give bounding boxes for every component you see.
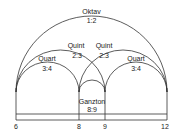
label-ganzton-ratio: 8:9 <box>87 106 97 113</box>
label-quart-right-name: Quart <box>127 55 145 63</box>
tick-6: 6 <box>14 123 18 130</box>
interval-arc-diagram: Oktav 1:2 Quint 2:3 Quint 2:3 Quart 3:4 … <box>0 0 177 134</box>
arc-quint-right <box>79 50 167 92</box>
arc-quint-left <box>16 50 105 92</box>
label-oktav-ratio: 1:2 <box>87 17 97 24</box>
arc-ganzton <box>79 80 105 92</box>
tick-8: 8 <box>77 123 81 130</box>
label-ganzton-name: Ganzton <box>79 98 106 105</box>
tick-9: 9 <box>103 123 107 130</box>
label-quart-left-name: Quart <box>38 55 56 63</box>
label-quint-right-ratio: 2:3 <box>99 52 109 59</box>
label-quint-left-name: Quint <box>68 42 85 50</box>
arc-oktav <box>16 16 167 92</box>
label-quart-left-ratio: 3:4 <box>42 65 52 72</box>
label-oktav-name: Oktav <box>82 8 101 15</box>
label-quart-right-ratio: 3:4 <box>131 65 141 72</box>
tick-12: 12 <box>161 123 169 130</box>
label-quint-right-name: Quint <box>96 42 113 50</box>
label-quint-left-ratio: 2:3 <box>72 52 82 59</box>
